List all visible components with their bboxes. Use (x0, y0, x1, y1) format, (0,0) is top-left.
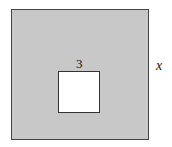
outer-side-label: x (156, 58, 162, 74)
inner-side-label: 3 (76, 56, 83, 72)
inner-square (58, 71, 100, 113)
